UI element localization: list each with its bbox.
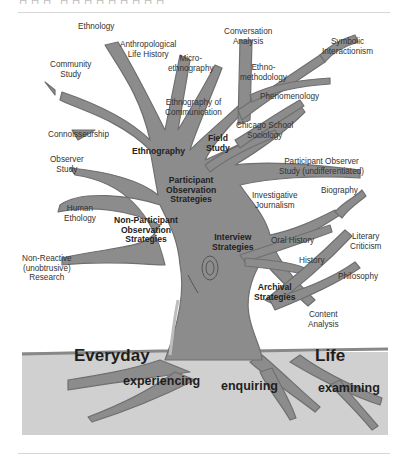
label-connoisseurship: Connoisseurship <box>48 130 109 140</box>
label-everyday: Everyday <box>74 346 150 366</box>
label-ethnography: Ethnography <box>132 147 185 157</box>
label-field-study: Field Study <box>206 134 230 153</box>
label-interview-strategies: Interview Strategies <box>212 233 254 252</box>
bottom-divider <box>18 453 390 454</box>
label-micro-ethnography: Micro- ethnography <box>168 54 214 73</box>
label-examining: examining <box>318 381 380 395</box>
label-symbolic-interactionism: Symbolic Interactionism <box>322 37 373 56</box>
label-observer-study: Observer Study <box>50 155 84 174</box>
label-biography: Biography <box>321 186 358 196</box>
label-community-study: Community Study <box>50 60 91 79</box>
label-history: History <box>299 256 324 266</box>
label-literary-criticism: Literary Criticism <box>350 232 381 251</box>
label-investigative-journalism: Investigative Journalism <box>252 191 298 210</box>
label-experiencing: experiencing <box>123 374 200 388</box>
label-chicago-school-sociology: Chicago School Sociology <box>236 121 293 140</box>
label-participant-observer-study: Participant Observer Study (undifferenti… <box>279 157 364 176</box>
label-phenomenology: Phenomenology <box>260 92 319 102</box>
label-conversation-analysis: Conversation Analysis <box>224 27 272 46</box>
label-non-participant-observation-strategies: Non-Participant Observation Strategies <box>114 216 178 245</box>
label-philosophy: Philosophy <box>338 272 378 282</box>
label-ethnology: Ethnology <box>78 22 114 32</box>
label-ethnomethodology: Ethno- methodology <box>240 63 287 82</box>
label-oral-history: Oral History <box>271 236 314 246</box>
label-human-ethology: Human Ethology <box>64 204 96 223</box>
label-archival-strategies: Archival Strategies <box>254 283 296 302</box>
label-enquiring: enquiring <box>221 379 278 393</box>
label-content-analysis: Content Analysis <box>308 310 339 329</box>
label-participant-observation-strategies: Participant Observation Strategies <box>166 176 216 205</box>
label-life: Life <box>315 346 345 366</box>
label-non-reactive-research: Non-Reactive (unobtrusive) Research <box>22 254 72 283</box>
label-ethnography-of-communication: Ethnography of Communication <box>165 98 222 117</box>
